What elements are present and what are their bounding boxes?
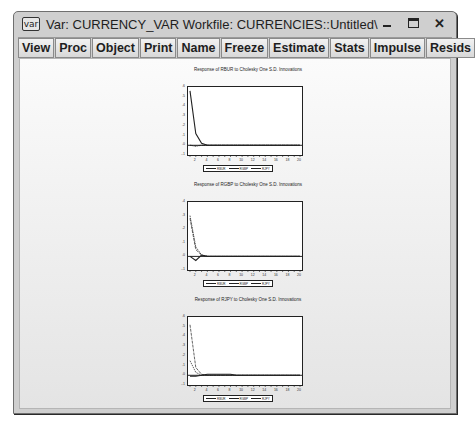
object-button[interactable]: Object xyxy=(92,38,139,58)
x-tick-label: 4 xyxy=(202,158,210,162)
y-tick-label: .0 xyxy=(175,372,185,376)
y-tick-label: -.1 xyxy=(175,152,185,156)
close-icon: ✕ xyxy=(434,16,445,31)
x-tick-label: 10 xyxy=(237,388,245,392)
window-title: Var: CURRENCY_VAR Workfile: CURRENCIES::… xyxy=(46,17,378,32)
legend-line-icon xyxy=(251,398,261,399)
y-tick-label: .5 xyxy=(175,324,185,328)
y-tick-label: -.1 xyxy=(175,382,185,386)
legend-line-icon xyxy=(251,168,261,169)
legend-line-icon xyxy=(206,398,216,399)
y-tick-label: .6 xyxy=(175,84,185,88)
chart-legend: RBURRGBPRJPY xyxy=(203,395,273,402)
x-tick-label: 20 xyxy=(295,273,303,277)
print-button[interactable]: Print xyxy=(140,38,176,58)
legend-item: RGBP xyxy=(229,282,249,286)
chart-title: Response of RJPY to Cholesky One S.D. In… xyxy=(173,297,323,303)
y-tick-label: .2 xyxy=(175,353,185,357)
x-tick-label: 18 xyxy=(283,158,291,162)
minimize-icon xyxy=(383,25,391,27)
legend-item: RJPY xyxy=(251,167,270,171)
line-series-svg xyxy=(188,317,302,385)
chart-legend: RBURRGBPRJPY xyxy=(203,165,273,172)
x-tick-label: 18 xyxy=(283,388,291,392)
legend-item: RBUR xyxy=(206,167,226,171)
legend-label: RBUR xyxy=(217,282,226,286)
close-button[interactable]: ✕ xyxy=(432,16,446,30)
x-tick-label: 12 xyxy=(249,273,257,277)
legend-line-icon xyxy=(229,398,239,399)
legend-item: RJPY xyxy=(251,282,270,286)
graph-view[interactable]: Response of RBUR to Cholesky One S.D. In… xyxy=(19,58,451,409)
name-button[interactable]: Name xyxy=(177,38,219,58)
legend-item: RBUR xyxy=(206,282,226,286)
x-tick-label: 12 xyxy=(249,388,257,392)
title-bar[interactable]: var Var: CURRENCY_VAR Workfile: CURRENCI… xyxy=(14,12,456,36)
legend-label: RJPY xyxy=(262,397,270,401)
y-tick-label: .6 xyxy=(175,314,185,318)
stats-button[interactable]: Stats xyxy=(330,38,369,58)
chart-title: Response of RGBP to Cholesky One S.D. In… xyxy=(173,182,323,188)
legend-label: RGBP xyxy=(240,397,249,401)
y-tick-label: .5 xyxy=(175,94,185,98)
object-toolbar: View Proc Object Print Name Freeze Estim… xyxy=(18,37,452,58)
legend-line-icon xyxy=(229,283,239,284)
y-tick-label: .4 xyxy=(175,199,185,203)
y-tick-label: -.1 xyxy=(175,267,185,271)
x-tick-label: 14 xyxy=(260,158,268,162)
legend-item: RGBP xyxy=(229,397,249,401)
x-tick-label: 8 xyxy=(226,388,234,392)
y-tick-label: .0 xyxy=(175,253,185,257)
x-tick-label: 16 xyxy=(272,388,280,392)
maximize-button[interactable] xyxy=(406,16,420,30)
y-tick-label: .0 xyxy=(175,142,185,146)
y-tick-label: .1 xyxy=(175,133,185,137)
maximize-icon xyxy=(408,18,419,28)
impulse-response-chart-rbur: Response of RBUR to Cholesky One S.D. In… xyxy=(173,65,323,177)
y-tick-label: .3 xyxy=(175,343,185,347)
proc-button[interactable]: Proc xyxy=(55,38,91,58)
legend-label: RGBP xyxy=(240,167,249,171)
x-tick-label: 20 xyxy=(295,158,303,162)
impulse-response-chart-rjpy: Response of RJPY to Cholesky One S.D. In… xyxy=(173,295,323,407)
plot-area xyxy=(187,316,303,386)
plot-area xyxy=(187,201,303,271)
x-tick-label: 16 xyxy=(272,273,280,277)
y-tick-label: .3 xyxy=(175,213,185,217)
x-tick-label: 8 xyxy=(226,273,234,277)
x-tick-label: 16 xyxy=(272,158,280,162)
y-tick-label: .4 xyxy=(175,333,185,337)
view-button[interactable]: View xyxy=(18,38,54,58)
line-series-svg xyxy=(188,202,302,270)
estimate-button[interactable]: Estimate xyxy=(269,38,329,58)
legend-line-icon xyxy=(206,283,216,284)
var-window: var Var: CURRENCY_VAR Workfile: CURRENCI… xyxy=(13,11,457,414)
legend-line-icon xyxy=(206,168,216,169)
x-tick-label: 2 xyxy=(191,158,199,162)
y-tick-label: .2 xyxy=(175,123,185,127)
x-tick-label: 4 xyxy=(202,388,210,392)
legend-label: RBUR xyxy=(217,167,226,171)
legend-label: RJPY xyxy=(262,282,270,286)
impulse-response-chart-rgbp: Response of RGBP to Cholesky One S.D. In… xyxy=(173,180,323,292)
x-tick-label: 6 xyxy=(214,388,222,392)
impulse-button[interactable]: Impulse xyxy=(370,38,425,58)
resids-button[interactable]: Resids xyxy=(426,38,475,58)
freeze-button[interactable]: Freeze xyxy=(221,38,269,58)
y-tick-label: .3 xyxy=(175,113,185,117)
legend-line-icon xyxy=(229,168,239,169)
x-tick-label: 14 xyxy=(260,388,268,392)
minimize-button[interactable] xyxy=(380,16,394,30)
x-tick-label: 20 xyxy=(295,388,303,392)
x-tick-label: 6 xyxy=(214,158,222,162)
y-tick-label: .1 xyxy=(175,240,185,244)
x-tick-label: 10 xyxy=(237,273,245,277)
legend-label: RJPY xyxy=(262,167,270,171)
legend-item: RGBP xyxy=(229,167,249,171)
x-tick-label: 6 xyxy=(214,273,222,277)
legend-label: RBUR xyxy=(217,397,226,401)
y-tick-label: .1 xyxy=(175,363,185,367)
legend-item: RJPY xyxy=(251,397,270,401)
x-tick-label: 2 xyxy=(191,273,199,277)
x-tick-label: 12 xyxy=(249,158,257,162)
